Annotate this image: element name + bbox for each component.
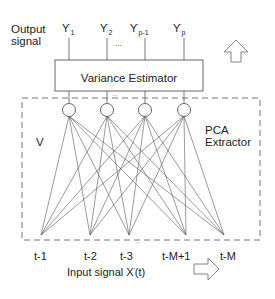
input-t-m: t-M — [220, 250, 236, 262]
right-arrow-icon — [194, 258, 219, 280]
output-y1: Y'1 — [62, 22, 74, 36]
weights-label: V — [36, 136, 44, 148]
output-yp: Y'p — [173, 22, 185, 36]
output-ellipsis: ... — [115, 38, 122, 50]
input-t-m+1: t-M+1 — [162, 250, 190, 262]
neuron-4 — [178, 104, 191, 117]
input-t-2: t-2 — [84, 250, 97, 262]
svg-text:...: ... — [136, 238, 141, 244]
neuron-3 — [139, 104, 152, 117]
pca-extractor-label: PCA Extractor — [205, 124, 251, 148]
output-yp-1: Y'p-1 — [130, 22, 149, 36]
neuron-2 — [101, 104, 114, 117]
input-t-1: t-1 — [34, 250, 47, 262]
pca-extractor-box — [22, 98, 260, 240]
variance-estimator-label: Variance Estimator — [55, 72, 203, 84]
svg-text:...: ... — [112, 91, 117, 97]
neuron-1 — [63, 104, 76, 117]
input-signal-label: Input signal X'(t) — [67, 266, 145, 278]
up-arrow-icon — [224, 40, 248, 62]
output-signal-label: Output signal — [11, 23, 46, 47]
input-t-3: t-3 — [120, 250, 133, 262]
output-y2: Y'2 — [100, 22, 112, 36]
